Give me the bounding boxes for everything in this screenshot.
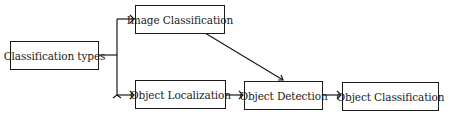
node-label: Object Detection — [239, 90, 327, 102]
node-label: Image Classification — [127, 14, 233, 26]
edge-image-classification-object-detection — [205, 33, 283, 80]
node-object-classification: Object Classification — [342, 82, 439, 111]
node-image-classification: Image Classification — [135, 5, 225, 34]
node-label: Object Localization — [130, 89, 231, 101]
node-label: Object Classification — [337, 91, 445, 103]
node-object-localization: Object Localization — [135, 80, 226, 109]
node-object-detection: Object Detection — [244, 81, 323, 110]
node-classification-types: Classification types — [10, 41, 99, 70]
node-label: Classification types — [4, 50, 106, 62]
